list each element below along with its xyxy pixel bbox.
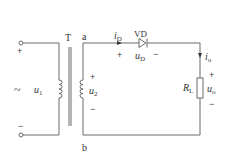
diode-minus-sign: − [153, 50, 158, 59]
primary-coil-icon [59, 80, 62, 98]
resistor-label: RL [183, 83, 193, 95]
transformer-label: T [65, 33, 71, 43]
primary-voltage-label: u1 [34, 85, 43, 97]
resistor-icon [197, 78, 203, 98]
secondary-voltage-label: u2 [89, 86, 98, 98]
primary-plus-sign: + [17, 47, 22, 56]
load-current-label: io [205, 52, 211, 64]
load-voltage-label: uo [207, 84, 216, 96]
ac-source-icon: ~ [14, 84, 21, 96]
input-terminal-plus [19, 41, 23, 45]
load-plus-sign: + [209, 71, 214, 80]
load-minus-sign: − [209, 100, 214, 109]
node-a-label: a [82, 32, 86, 42]
diode-current-label: iD [114, 31, 122, 43]
input-terminal-minus [19, 133, 23, 137]
diode-voltage-label: uD [135, 51, 145, 63]
load-current-arrow-icon [198, 53, 202, 58]
diode-plus-sign: + [117, 51, 122, 60]
secondary-minus-sign: − [90, 105, 95, 114]
primary-minus-sign: − [18, 122, 23, 131]
circuit-schematic [0, 0, 228, 161]
diode-label: VD [134, 30, 147, 39]
secondary-coil-icon [80, 80, 83, 98]
node-b-label: b [82, 143, 87, 153]
diode-icon [139, 39, 147, 48]
secondary-plus-sign: + [90, 73, 95, 82]
